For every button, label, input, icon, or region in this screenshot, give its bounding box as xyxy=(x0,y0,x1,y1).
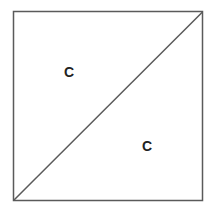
region-label-lower-right: C xyxy=(142,138,152,154)
diagonal-line xyxy=(14,12,203,201)
region-label-upper-left: C xyxy=(64,64,74,80)
diagram-canvas: C C xyxy=(0,0,214,208)
